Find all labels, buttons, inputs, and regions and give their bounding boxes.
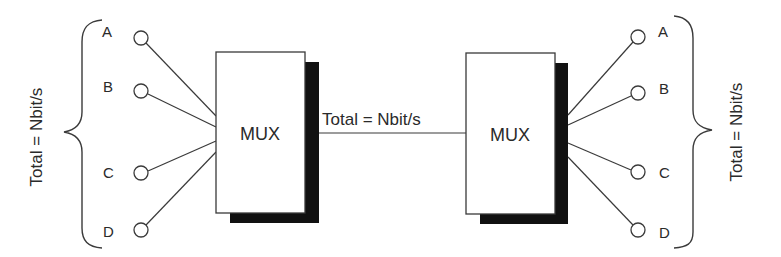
right-port-b-icon: [631, 86, 645, 100]
left-channel-d-label: D: [103, 223, 114, 240]
right-brace: [674, 16, 712, 248]
right-line-b: [568, 96, 631, 125]
left-channel-group: Total = Nbit/s A B C D: [27, 20, 216, 248]
left-channel-a-label: A: [102, 23, 112, 40]
link-total-label: Total = Nbit/s: [322, 110, 421, 129]
left-brace: [64, 20, 102, 248]
left-port-b-icon: [134, 84, 148, 98]
right-port-d-icon: [631, 223, 645, 237]
left-mux-label: MUX: [240, 124, 280, 144]
right-total-label: Total = Nbit/s: [727, 83, 746, 182]
left-port-d-icon: [134, 223, 148, 237]
right-channel-d-label: D: [659, 224, 670, 241]
link-group: Total = Nbit/s: [319, 110, 466, 133]
right-mux-label: MUX: [490, 125, 530, 145]
right-mux-block: MUX: [466, 53, 568, 224]
right-line-a: [568, 42, 633, 115]
right-channel-group: A B C D Total = Nbit/s: [568, 16, 746, 248]
left-mux-block: MUX: [216, 52, 319, 223]
right-port-a-icon: [631, 30, 645, 44]
left-total-label: Total = Nbit/s: [27, 88, 46, 187]
left-channel-b-label: B: [103, 78, 113, 95]
left-port-c-icon: [134, 166, 148, 180]
right-channel-b-label: B: [659, 80, 669, 97]
left-line-d: [146, 152, 216, 225]
left-port-a-icon: [134, 31, 148, 45]
right-channel-c-label: C: [659, 164, 670, 181]
right-port-c-icon: [631, 165, 645, 179]
right-channel-a-label: A: [658, 23, 668, 40]
left-line-b: [148, 94, 216, 127]
multiplexer-diagram: Total = Nbit/s A B C D MUX Total = Nbit/…: [0, 0, 781, 257]
left-line-a: [146, 43, 216, 116]
left-channel-c-label: C: [103, 164, 114, 181]
right-line-c: [568, 143, 631, 170]
left-line-c: [148, 141, 216, 171]
